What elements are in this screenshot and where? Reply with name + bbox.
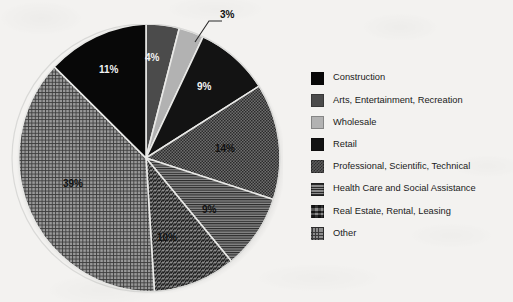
legend-swatch-retail-icon [311,138,324,151]
pie-value-label-other: 39% [63,178,83,189]
legend-swatch-other-icon [311,227,324,240]
legend-label-health-care-social-assistance: Health Care and Social Assistance [333,184,476,193]
legend-swatch-real-estate-rental-leasing-icon [311,205,324,218]
chart-legend: Construction Arts, Entertainment, Recrea… [311,67,507,245]
legend-item-construction[interactable]: Construction [311,67,507,89]
legend-swatch-wholesale-icon [311,116,324,129]
legend-label-construction: Construction [333,73,385,82]
legend-item-professional-scientific-technical[interactable]: Professional, Scientific, Technical [311,156,507,178]
legend-item-retail[interactable]: Retail [311,134,507,156]
legend-item-arts-entertainment-recreation[interactable]: Arts, Entertainment, Recreation [311,89,507,111]
pie-value-label-retail: 9% [197,81,211,92]
pie-value-label-professional-scientific-technical: 14% [215,143,235,154]
pie-value-label-wholesale: 3% [220,9,234,20]
pie-value-label-health-care-social-assistance: 9% [202,204,216,215]
pie-value-label-real-estate-rental-leasing: 10% [157,232,177,243]
pie-chart-svg [11,24,283,294]
pie-value-label-arts-entertainment-recreation: 4% [145,52,159,63]
legend-swatch-arts-entertainment-recreation-icon [311,94,324,107]
legend-swatch-professional-scientific-technical-icon [311,160,324,173]
legend-item-health-care-social-assistance[interactable]: Health Care and Social Assistance [311,178,507,200]
legend-item-other[interactable]: Other [311,222,507,244]
legend-item-real-estate-rental-leasing[interactable]: Real Estate, Rental, Leasing [311,200,507,222]
legend-item-wholesale[interactable]: Wholesale [311,111,507,133]
legend-label-professional-scientific-technical: Professional, Scientific, Technical [333,162,470,171]
legend-label-real-estate-rental-leasing: Real Estate, Rental, Leasing [333,207,451,216]
legend-label-other: Other [333,229,356,238]
pie-value-label-construction: 11% [99,64,118,75]
pie-chart: 4% 9% 14% 9% 10% 39% 11% [11,24,283,294]
legend-label-wholesale: Wholesale [333,118,376,127]
legend-swatch-construction-icon [311,72,324,85]
legend-label-retail: Retail [333,140,357,149]
legend-label-arts-entertainment-recreation: Arts, Entertainment, Recreation [333,96,463,105]
chart-page: 4% 9% 14% 9% 10% 39% 11% 3% Construction… [0,0,513,302]
legend-swatch-health-care-social-assistance-icon [311,183,324,196]
